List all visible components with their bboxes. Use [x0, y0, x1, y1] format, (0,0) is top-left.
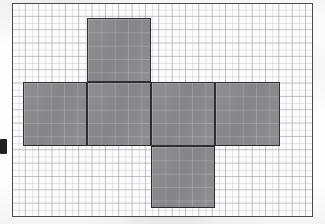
- face-texture: [24, 83, 86, 145]
- figure-canvas: [0, 0, 325, 224]
- face-texture: [216, 83, 279, 145]
- face-grid-lines: [152, 83, 214, 145]
- face-grid-lines: [88, 83, 150, 145]
- net-face-front[interactable]: [87, 82, 151, 146]
- edge-ink-blob-artifact: [0, 139, 7, 154]
- net-face-back[interactable]: [215, 82, 280, 146]
- net-face-top[interactable]: [87, 18, 151, 82]
- face-texture: [152, 147, 214, 207]
- net-face-left[interactable]: [23, 82, 87, 146]
- net-face-right[interactable]: [151, 82, 215, 146]
- face-grid-lines: [24, 83, 86, 145]
- net-face-bottom[interactable]: [151, 146, 215, 208]
- face-texture: [152, 83, 214, 145]
- face-texture: [88, 83, 150, 145]
- face-texture: [88, 19, 150, 81]
- face-grid-lines: [216, 83, 279, 145]
- face-grid-lines: [152, 147, 214, 207]
- face-grid-lines: [88, 19, 150, 81]
